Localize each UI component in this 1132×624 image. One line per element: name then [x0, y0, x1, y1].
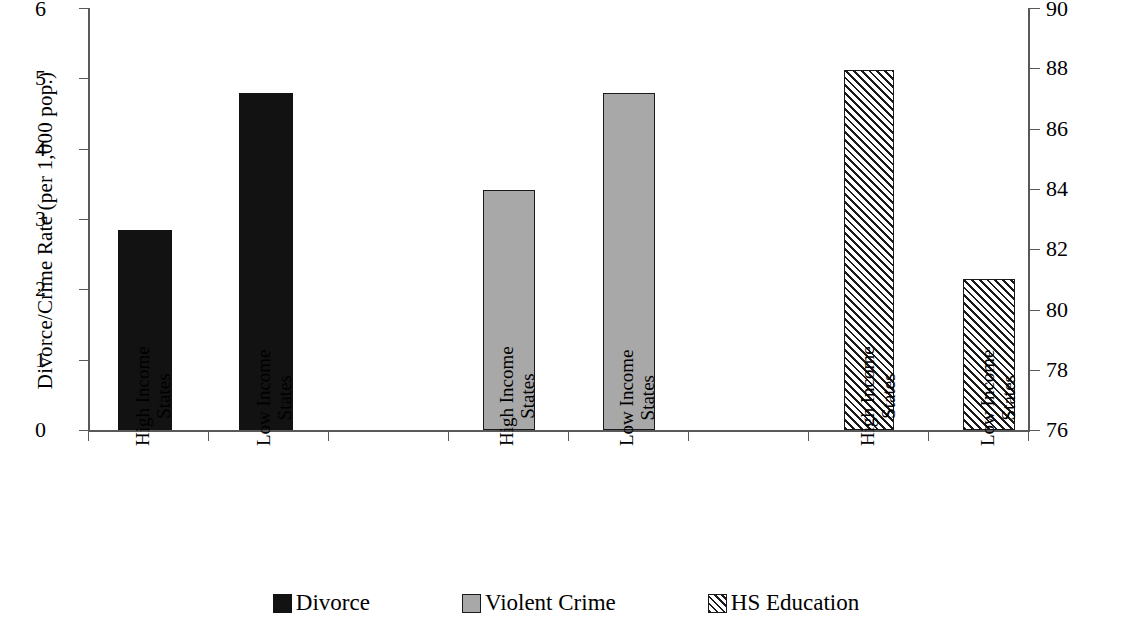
y-axis-left-tick-label: 6: [35, 0, 46, 20]
y-axis-right-tick-label: 84: [1046, 178, 1068, 200]
y-axis-right-tick: [1029, 129, 1040, 130]
y-axis-left-tick: [79, 360, 89, 361]
y-axis-right-tick-label: 80: [1046, 299, 1068, 321]
y-axis-left-tick-label: 0: [35, 419, 46, 441]
x-axis-tick: [568, 432, 569, 441]
x-axis-tick: [1028, 432, 1029, 441]
y-axis-right-tick-label: 86: [1046, 118, 1068, 140]
x-axis-label-line1: High Income: [132, 346, 153, 446]
legend-label-hs-education: HS Education: [731, 590, 859, 616]
x-axis-label-divorce-high-income: High Income States: [132, 346, 174, 446]
bar-chart: Divorce/Crime Rate (per 1,000 pop.) High…: [0, 0, 1132, 624]
x-axis-label-line2: States: [637, 349, 658, 446]
y-axis-right-tick: [1029, 68, 1040, 69]
y-axis-left-tick: [79, 289, 89, 290]
legend: Divorce Violent Crime HS Education: [0, 586, 1132, 620]
legend-item-divorce[interactable]: Divorce: [273, 590, 370, 616]
y-axis-right-tick: [1029, 370, 1040, 371]
y-axis-left-tick-label: 1: [35, 349, 46, 371]
x-axis-label-line2: States: [153, 346, 174, 446]
y-axis-left-tick-label: 5: [35, 67, 46, 89]
y-axis-right-tick-label: 82: [1046, 238, 1068, 260]
y-axis-left-tick-label: 4: [35, 138, 46, 160]
y-axis-right-tick-label: 88: [1046, 57, 1068, 79]
y-axis-right-tick-label: 78: [1046, 359, 1068, 381]
x-axis-label-line1: High Income: [857, 346, 878, 446]
x-axis-label-line1: Low Income: [253, 349, 274, 446]
x-axis-tick: [688, 432, 689, 441]
legend-item-violent-crime[interactable]: Violent Crime: [462, 590, 616, 616]
y-axis-left-tick: [79, 430, 89, 431]
x-axis-tick: [928, 432, 929, 441]
legend-swatch-violent-crime-icon: [462, 594, 481, 613]
y-axis-right-tick: [1029, 249, 1040, 250]
y-axis-right-tick: [1029, 8, 1040, 9]
x-axis-tick: [328, 432, 329, 441]
y-axis-right-tick-label: 76: [1046, 419, 1068, 441]
x-axis-label-line2: States: [274, 349, 295, 446]
legend-swatch-hs-education-icon: [708, 594, 727, 613]
legend-swatch-divorce-icon: [273, 594, 292, 613]
x-axis-label-line1: High Income: [496, 346, 517, 446]
y-axis-right-tick-label: 90: [1046, 0, 1068, 20]
x-axis-label-violent-crime-low-income: Low Income States: [616, 349, 658, 446]
x-axis-label-hs-education-low-income: Low Income States: [977, 349, 1019, 446]
x-axis-label-violent-crime-high-income: High Income States: [496, 346, 538, 446]
x-axis-label-line1: Low Income: [977, 349, 998, 446]
x-axis-tick: [208, 432, 209, 441]
y-axis-left-tick: [79, 8, 89, 9]
x-axis-label-line2: States: [517, 346, 538, 446]
y-axis-left-line: [88, 8, 90, 432]
x-axis-tick: [448, 432, 449, 441]
x-axis-label-hs-education-high-income: High Income States: [857, 346, 899, 446]
y-axis-right-tick: [1029, 430, 1040, 431]
x-axis-tick: [808, 432, 809, 441]
x-axis-tick: [88, 432, 89, 441]
y-axis-left-tick-label: 3: [35, 208, 46, 230]
y-axis-left-tick-label: 2: [35, 278, 46, 300]
x-axis-label-line2: States: [878, 346, 899, 446]
legend-label-divorce: Divorce: [296, 590, 370, 616]
y-axis-left-tick: [79, 78, 89, 79]
x-axis-label-line1: Low Income: [616, 349, 637, 446]
y-axis-right-tick: [1029, 189, 1040, 190]
x-axis-label-divorce-low-income: Low Income States: [253, 349, 295, 446]
legend-item-hs-education[interactable]: HS Education: [708, 590, 859, 616]
legend-label-violent-crime: Violent Crime: [485, 590, 616, 616]
y-axis-right-line: [1028, 8, 1030, 432]
x-axis-label-line2: States: [998, 349, 1019, 446]
y-axis-left-tick: [79, 149, 89, 150]
y-axis-left-tick: [79, 219, 89, 220]
y-axis-right-tick: [1029, 310, 1040, 311]
